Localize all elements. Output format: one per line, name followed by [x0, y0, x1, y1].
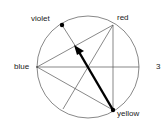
blue-point	[36, 66, 38, 68]
arrow-shaft	[79, 52, 113, 110]
label-red: red	[117, 14, 129, 22]
figure-number: 3	[156, 63, 160, 71]
label-yellow: yellow	[117, 110, 139, 118]
yellow-dot	[111, 108, 115, 112]
arrow-head-icon	[74, 45, 84, 55]
label-violet: violet	[31, 15, 50, 23]
violet-dot	[60, 23, 64, 27]
line-violet-yellow	[62, 25, 76, 47]
label-blue: blue	[14, 63, 29, 71]
